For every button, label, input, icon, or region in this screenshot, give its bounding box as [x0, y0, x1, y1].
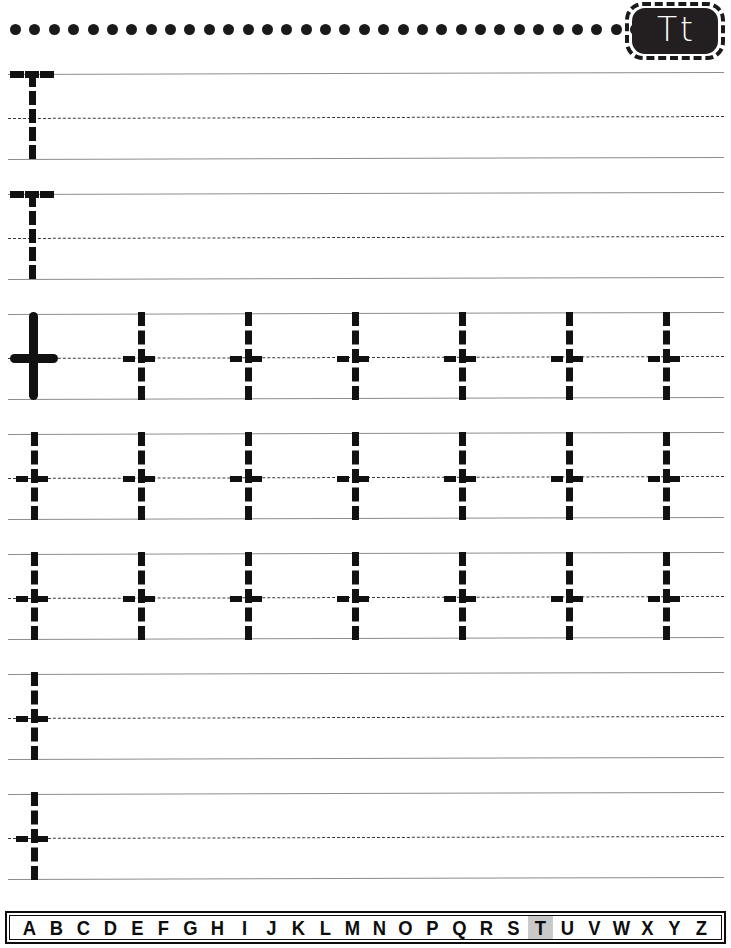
alphabet-letter-m[interactable]: M	[340, 916, 365, 939]
alphabet-letter-y[interactable]: Y	[662, 916, 687, 939]
border-dot	[456, 24, 467, 35]
alphabet-letter-w[interactable]: W	[609, 916, 634, 939]
trace-letter-lowercase-t[interactable]	[640, 420, 696, 530]
letter-stroke-crossbar	[337, 596, 369, 602]
border-dot	[262, 24, 273, 35]
alphabet-letter-i[interactable]: I	[232, 916, 257, 939]
trace-letter-lowercase-t[interactable]	[8, 420, 64, 530]
border-dot	[514, 24, 525, 35]
badge-lowercase-letter: t	[680, 13, 693, 46]
border-dot	[378, 24, 389, 35]
border-dot	[611, 24, 622, 35]
letter-stroke-crossbar	[230, 476, 262, 482]
letter-stroke-crossbar	[648, 596, 680, 602]
model-letter-t[interactable]	[8, 300, 64, 410]
border-dot	[320, 24, 331, 35]
trace-letter-lowercase-t[interactable]	[8, 540, 64, 650]
letter-stroke-crossbar	[230, 356, 262, 362]
alphabet-letter-v[interactable]: V	[582, 916, 607, 939]
practice-row[interactable]	[0, 540, 731, 660]
trace-letter-lowercase-t[interactable]	[329, 300, 385, 410]
border-dot	[243, 24, 254, 35]
trace-letter-lowercase-t[interactable]	[436, 420, 492, 530]
border-dot	[301, 24, 312, 35]
alphabet-letter-t[interactable]: T	[528, 916, 553, 939]
trace-letter-lowercase-t[interactable]	[8, 780, 64, 890]
baseline-guide-line	[8, 157, 724, 160]
alphabet-strip: ABCDEFGHIJKLMNOPQRSTUVWXYZ	[5, 911, 726, 944]
trace-letter-lowercase-t[interactable]	[543, 540, 599, 650]
border-dot	[223, 24, 234, 35]
trace-letter-lowercase-t[interactable]	[436, 540, 492, 650]
badge-uppercase-letter: T	[657, 13, 677, 46]
trace-letter-lowercase-t[interactable]	[543, 420, 599, 530]
alphabet-letter-b[interactable]: B	[44, 916, 69, 939]
practice-row[interactable]	[0, 780, 731, 900]
alphabet-letter-e[interactable]: E	[125, 916, 150, 939]
alphabet-letter-f[interactable]: F	[152, 916, 177, 939]
letter-stroke-crossbar	[551, 476, 583, 482]
alphabet-letter-q[interactable]: Q	[447, 916, 472, 939]
border-dot	[88, 24, 99, 35]
alphabet-letter-z[interactable]: Z	[689, 916, 714, 939]
border-dot	[572, 24, 583, 35]
trace-letter-lowercase-t[interactable]	[222, 420, 278, 530]
trace-letter-lowercase-t[interactable]	[222, 540, 278, 650]
letter-stroke-crossbar	[16, 716, 48, 722]
alphabet-letter-n[interactable]: N	[367, 916, 392, 939]
alphabet-letter-o[interactable]: O	[394, 916, 419, 939]
trace-letter-lowercase-t[interactable]	[115, 420, 171, 530]
letter-stroke-crossbar	[337, 356, 369, 362]
dashed-midline	[8, 236, 724, 239]
letter-stroke-crossbar	[123, 596, 155, 602]
worksheet-page: T t ABCDEFGHIJKLMNOPQRSTUVWXYZ	[0, 0, 731, 948]
practice-row[interactable]	[0, 300, 731, 420]
practice-row[interactable]	[0, 180, 731, 300]
border-dot	[359, 24, 370, 35]
letter-stroke-crossbar	[16, 596, 48, 602]
trace-letter-uppercase-t[interactable]	[8, 180, 64, 290]
border-dot	[533, 24, 544, 35]
top-dotted-border	[10, 24, 630, 36]
trace-letter-lowercase-t[interactable]	[329, 420, 385, 530]
alphabet-letter-j[interactable]: J	[259, 916, 284, 939]
letter-stroke-crossbar	[444, 356, 476, 362]
trace-letter-lowercase-t[interactable]	[8, 660, 64, 770]
border-dot	[146, 24, 157, 35]
alphabet-letter-h[interactable]: H	[205, 916, 230, 939]
trace-letter-lowercase-t[interactable]	[115, 300, 171, 410]
trace-letter-lowercase-t[interactable]	[640, 300, 696, 410]
alphabet-letter-u[interactable]: U	[555, 916, 580, 939]
alphabet-letter-x[interactable]: X	[636, 916, 661, 939]
alphabet-letter-d[interactable]: D	[98, 916, 123, 939]
top-guide-line	[8, 672, 724, 675]
border-dot	[553, 24, 564, 35]
practice-row[interactable]	[0, 420, 731, 540]
border-dot	[165, 24, 176, 35]
trace-letter-uppercase-t[interactable]	[8, 60, 64, 170]
trace-letter-lowercase-t[interactable]	[115, 540, 171, 650]
alphabet-letter-r[interactable]: R	[474, 916, 499, 939]
letter-stroke-crossbar	[16, 836, 48, 842]
trace-letter-lowercase-t[interactable]	[329, 540, 385, 650]
border-dot	[436, 24, 447, 35]
letter-stroke-crossbar	[648, 476, 680, 482]
border-dot	[49, 24, 60, 35]
alphabet-letter-s[interactable]: S	[501, 916, 526, 939]
top-guide-line	[8, 72, 724, 75]
trace-letter-lowercase-t[interactable]	[543, 300, 599, 410]
alphabet-letter-c[interactable]: C	[71, 916, 96, 939]
practice-row[interactable]	[0, 660, 731, 780]
alphabet-letter-k[interactable]: K	[286, 916, 311, 939]
alphabet-letter-a[interactable]: A	[17, 916, 42, 939]
alphabet-letter-p[interactable]: P	[420, 916, 445, 939]
alphabet-letter-l[interactable]: L	[313, 916, 338, 939]
practice-row[interactable]	[0, 60, 731, 180]
alphabet-letter-g[interactable]: G	[178, 916, 203, 939]
border-dot	[591, 24, 602, 35]
trace-letter-lowercase-t[interactable]	[640, 540, 696, 650]
border-dot	[29, 24, 40, 35]
letter-stroke-vertical	[29, 193, 36, 279]
trace-letter-lowercase-t[interactable]	[222, 300, 278, 410]
trace-letter-lowercase-t[interactable]	[436, 300, 492, 410]
